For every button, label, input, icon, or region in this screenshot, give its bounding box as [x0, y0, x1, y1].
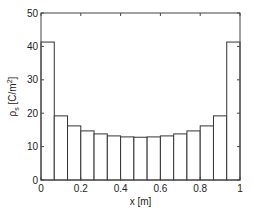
y-tick-label: 50	[27, 8, 39, 19]
bar	[213, 116, 226, 180]
bar	[160, 136, 173, 180]
bar	[174, 134, 187, 180]
x-tick-label: 0.6	[153, 183, 167, 194]
x-tick-label: 0	[38, 183, 44, 194]
bar	[134, 137, 147, 180]
chart: 01020304050 00.20.40.60.81 x [m] ρs [C/m…	[0, 0, 254, 210]
bar	[187, 131, 200, 180]
x-tick-label: 0.4	[114, 183, 128, 194]
y-axis-label-unit: [C/m	[7, 83, 18, 107]
y-tick-label: 40	[27, 41, 39, 52]
bar	[121, 137, 134, 180]
bar	[200, 126, 213, 180]
x-tick-label: 0.8	[193, 183, 207, 194]
y-axis-label: ρs [C/m2]	[6, 76, 20, 116]
bar	[68, 126, 81, 180]
bar	[107, 136, 120, 180]
bar-series	[41, 42, 240, 180]
bar	[227, 42, 240, 180]
bar	[41, 42, 54, 180]
x-axis-label: x [m]	[130, 196, 152, 207]
bar	[94, 134, 107, 180]
y-tick-label: 10	[27, 141, 39, 152]
bar	[54, 116, 67, 180]
x-tick-label: 1	[237, 183, 243, 194]
bar	[147, 137, 160, 180]
y-tick-label: 20	[27, 108, 39, 119]
x-tick-label: 0.2	[74, 183, 88, 194]
bar	[81, 131, 94, 180]
y-axis-label-unit-close: ]	[7, 76, 18, 79]
y-tick-label: 30	[27, 74, 39, 85]
